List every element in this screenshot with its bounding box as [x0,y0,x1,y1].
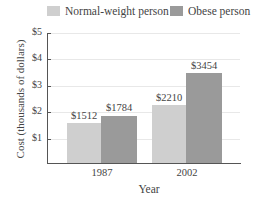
y-tick-label: $5 [22,26,42,37]
legend-swatch-obese [170,6,183,16]
bar-value-label: $1512 [64,110,104,121]
x-tick-label: 1987 [82,167,122,178]
y-tick-label: $2 [22,105,42,116]
x-tick-label: 2002 [167,167,207,178]
legend-label: Obese person [188,5,250,17]
bar-obese-1987 [101,116,137,163]
y-tick-label: $4 [22,52,42,63]
x-axis-label: Year [124,183,174,195]
bar-value-label: $1784 [99,102,139,113]
legend-item-normal-weight: Normal-weight person [47,5,169,17]
y-axis-line [47,33,48,164]
bar-value-label: $3454 [184,60,224,71]
legend-swatch-normal-weight [47,6,60,16]
bar-normal-1987 [67,123,101,163]
y-tick-label: $1 [22,132,42,143]
bar-normal-2002 [152,105,186,163]
legend-label: Normal-weight person [65,5,169,17]
bar-value-label: $2210 [149,92,189,103]
legend-item-obese: Obese person [170,5,250,17]
gridline [48,33,240,34]
chart-legend: Normal-weight person Obese person [0,5,254,19]
bar-obese-2002 [186,73,222,163]
y-tick-label: $3 [22,79,42,90]
x-axis-line [47,163,241,164]
